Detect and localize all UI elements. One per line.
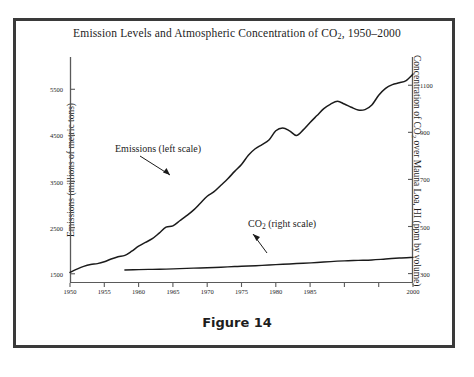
right-tick-label-500: 500: [420, 223, 430, 230]
plot-svg: [70, 57, 413, 283]
right-tick-label-700: 700: [420, 176, 430, 183]
co2-callout-label-after: (right scale): [266, 218, 317, 229]
x-tick-label-1965: 1965: [166, 288, 179, 295]
x-tick-label-1975: 1975: [235, 288, 248, 295]
left-tick-label-1500: 1500: [50, 270, 63, 277]
co2-callout-label: CO2 (right scale): [248, 218, 316, 231]
emissions-callout-arrow: [140, 156, 170, 175]
chart-title-text-after: , 1950–2000: [342, 27, 401, 39]
figure-caption: Figure 14: [0, 315, 474, 330]
left-tick-label-4500: 4500: [50, 132, 63, 139]
axes-group: [70, 57, 413, 283]
x-tick-label-1955: 1955: [98, 288, 111, 295]
plot-area: Emissions (millions of metric tons) Conc…: [70, 57, 413, 283]
chart-title-text-before: Emission Levels and Atmospheric Concentr…: [73, 27, 337, 39]
x-tick-label-1980: 1980: [269, 288, 282, 295]
left-tick-label-2500: 2500: [50, 224, 63, 231]
x-tick-label-1970: 1970: [201, 288, 214, 295]
right-tick-label-1100: 1100: [420, 82, 433, 89]
left-tick-label-3500: 3500: [50, 178, 63, 185]
right-tick-label-300: 300: [420, 270, 430, 277]
right-tick-label-900: 900: [420, 129, 430, 136]
co2-callout-label-before: CO: [248, 218, 262, 229]
figure-root: Emission Levels and Atmospheric Concentr…: [0, 0, 474, 377]
emissions-callout-label: Emissions (left scale): [115, 143, 201, 154]
right-axis-title-after: over Mauna Loa, HI (ppm by volume): [412, 138, 422, 286]
right-axis-title-before: Concentration of CO: [412, 55, 422, 135]
x-tick-label-2000: 2000: [407, 288, 420, 295]
co2-series-line: [125, 257, 413, 270]
x-tick-label-1950: 1950: [64, 288, 77, 295]
left-tick-label-5500: 5500: [50, 86, 63, 93]
x-tick-label-1985: 1985: [304, 288, 317, 295]
co2-callout-arrow: [253, 234, 267, 253]
x-tick-label-1960: 1960: [132, 288, 145, 295]
emissions-series-line: [70, 74, 413, 272]
